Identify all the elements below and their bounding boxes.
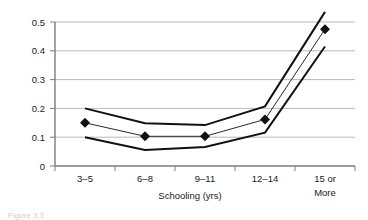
y-tick-label-0: 0	[40, 161, 45, 172]
y-tick-label-0.5: 0.5	[32, 17, 45, 28]
data-point-marker-12-14	[260, 114, 270, 124]
y-tick-label-0.4: 0.4	[32, 45, 45, 56]
data-point-marker-15-or-more	[320, 24, 330, 34]
y-tick-label-0.3: 0.3	[32, 74, 45, 85]
line-chart: 0.5 0.4 0.3 0.2 0.1 0 3–5 6–8 9–11 12–14…	[0, 0, 368, 220]
x-tick-label-15-or-more-line1: 15 or	[314, 173, 336, 184]
data-point-marker-3-5	[80, 118, 90, 128]
x-tick-label-15-or-more-line2: More	[314, 187, 336, 198]
x-tick-label-3-5: 3–5	[77, 173, 93, 184]
x-tick-label-12-14: 12–14	[252, 173, 278, 184]
y-axis-ticks	[50, 22, 55, 166]
x-tick-label-9-11: 9–11	[195, 173, 215, 184]
data-point-marker-6-8	[140, 131, 150, 141]
axes	[55, 22, 355, 166]
series-estimate	[85, 29, 325, 136]
x-tick-label-6-8: 6–8	[137, 173, 153, 184]
x-axis-title: Schooling (yrs)	[158, 190, 221, 201]
figure-container: 0.5 0.4 0.3 0.2 0.1 0 3–5 6–8 9–11 12–14…	[0, 0, 368, 220]
x-axis-ticks	[55, 166, 355, 171]
gridlines-y	[55, 22, 355, 137]
y-tick-label-0.2: 0.2	[32, 103, 45, 114]
figure-caption: Figure 3.3	[8, 211, 45, 220]
series-estimate-markers	[80, 24, 330, 141]
y-axis-tick-labels: 0.5 0.4 0.3 0.2 0.1 0	[32, 17, 45, 172]
data-point-marker-9-11	[200, 131, 210, 141]
y-tick-label-0.1: 0.1	[32, 132, 45, 143]
